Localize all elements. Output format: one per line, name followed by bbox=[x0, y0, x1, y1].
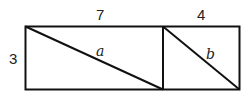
left-width-label: 7 bbox=[96, 6, 104, 23]
height-label: 3 bbox=[9, 50, 17, 67]
diagonal-b-label: b bbox=[206, 46, 215, 62]
diagonal-a bbox=[26, 27, 164, 90]
diagram: 3 7 4 a b bbox=[0, 0, 249, 97]
diagonal-b bbox=[163, 27, 240, 90]
diagonal-a-label: a bbox=[96, 43, 104, 59]
right-width-label: 4 bbox=[197, 6, 205, 23]
